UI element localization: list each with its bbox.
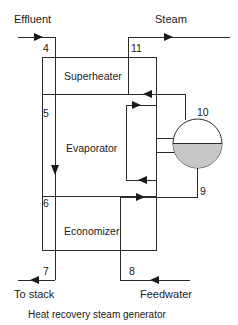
label-group: Effluent Steam To stack Feedwater Superh… — [14, 13, 209, 320]
steam-water-path-group — [120, 33, 230, 284]
label-superheater: Superheater — [64, 70, 122, 82]
label-evaporator: Evaporator — [66, 142, 118, 154]
label-node-4: 4 — [43, 42, 49, 54]
label-feedwater: Feedwater — [140, 288, 192, 300]
evaporator-riser-top-arrowhead — [132, 101, 141, 109]
label-effluent: Effluent — [14, 13, 51, 25]
label-economizer: Economizer — [64, 225, 120, 237]
label-node-7: 7 — [43, 265, 49, 277]
steam-drum-water-level-fill — [173, 144, 222, 168]
drum-to-superheater-arrowhead — [143, 90, 152, 98]
hrsg-schematic-svg: Effluent Steam To stack Feedwater Superh… — [0, 0, 238, 325]
economizer-box — [42, 196, 156, 250]
evaporator-loop-bottom-arrowhead — [138, 176, 147, 184]
gas-duct-flow-arrowhead — [51, 165, 59, 175]
label-to-stack: To stack — [14, 288, 55, 300]
steam-outlet-arrowhead — [164, 33, 173, 41]
label-steam: Steam — [155, 13, 187, 25]
hrsg-diagram: Effluent Steam To stack Feedwater Superh… — [0, 0, 238, 325]
gas-path-group — [18, 33, 59, 284]
economizer-outlet-arrowhead — [136, 193, 145, 201]
effluent-inlet-arrowhead — [34, 33, 43, 41]
label-node-9: 9 — [200, 185, 206, 197]
to-stack-arrowhead — [30, 276, 39, 284]
label-node-5: 5 — [43, 107, 49, 119]
diagram-caption: Heat recovery steam generator — [28, 309, 167, 320]
label-node-11: 11 — [131, 42, 142, 54]
label-node-6: 6 — [43, 197, 49, 209]
label-node-10: 10 — [197, 106, 209, 118]
feedwater-inlet-arrowhead — [150, 276, 159, 284]
label-node-8: 8 — [129, 265, 135, 277]
